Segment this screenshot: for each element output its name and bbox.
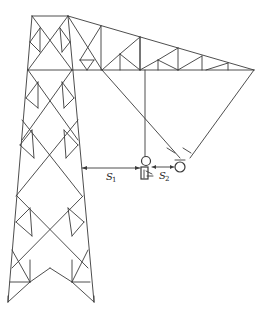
- cross-arm: [68, 16, 254, 70]
- tower-diagram: S 1 S 2: [0, 0, 264, 312]
- insulator-string: [102, 70, 254, 158]
- worker-figure: [141, 157, 153, 180]
- conductor: [175, 160, 185, 172]
- s2-dimension: S 2: [152, 165, 174, 183]
- s1-dimension: S 1: [82, 166, 140, 184]
- s1-subscript: 1: [112, 176, 116, 184]
- s2-subscript: 2: [165, 175, 169, 183]
